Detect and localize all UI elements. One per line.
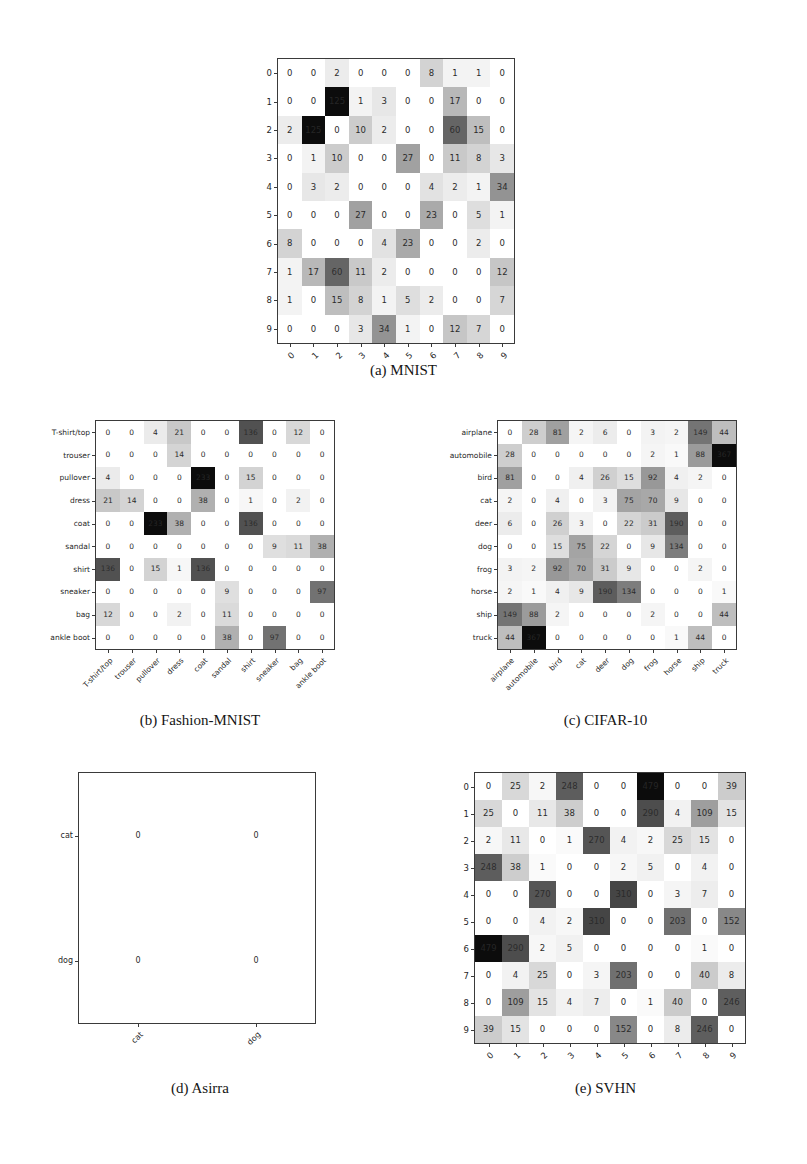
y-tick-label: 5 [267, 201, 278, 229]
heatmap-cell: 88 [522, 603, 546, 626]
y-tick-label: 3 [267, 144, 278, 172]
caption-cifar10: (c) CIFAR-10 [404, 712, 807, 729]
heatmap-cell: 0 [167, 467, 191, 490]
heatmap-cell: 15 [546, 535, 570, 558]
caption-mnist: (a) MNIST [0, 362, 807, 379]
heatmap-cell: 0 [556, 962, 583, 989]
heatmap-cell: 0 [593, 626, 617, 649]
heatmap-cell: 310 [583, 908, 610, 935]
heatmap-cell: 15 [467, 116, 491, 144]
x-tick-mark [108, 649, 109, 653]
heatmap-cell: 22 [617, 512, 641, 535]
heatmap-cell: 0 [263, 421, 287, 444]
heatmap-cell: 367 [712, 444, 736, 467]
heatmap-cell: 0 [443, 229, 467, 257]
heatmap-cell: 0 [191, 581, 215, 604]
heatmap-cell: 0 [325, 201, 349, 229]
heatmap-cell: 0 [718, 935, 745, 962]
heatmap-cell: 0 [263, 444, 287, 467]
x-tick-mark [624, 1043, 625, 1047]
heatmap-cell: 0 [664, 854, 691, 881]
heatmap-cell: 4 [529, 908, 556, 935]
svhn-matrix: 0252248004790039250113800290410915211012… [474, 772, 746, 1044]
heatmap-cell: 14 [167, 444, 191, 467]
heatmap-cell: 21 [96, 489, 120, 512]
fashion-mnist-grid: 0042100136012000014000000400023301500021… [96, 421, 334, 649]
x-tick-mark [558, 649, 559, 653]
y-tick-label: ship [476, 603, 498, 626]
heatmap-cell: 11 [286, 535, 310, 558]
heatmap-cell: 190 [665, 512, 689, 535]
heatmap-cell: 0 [583, 800, 610, 827]
heatmap-cell: 0 [96, 581, 120, 604]
heatmap-cell: 12 [490, 258, 514, 286]
heatmap-cell: 4 [502, 962, 529, 989]
y-tick-label: bird [477, 467, 498, 490]
heatmap-cell: 1 [302, 144, 326, 172]
heatmap-cell: 39 [718, 773, 745, 800]
heatmap-cell: 38 [215, 626, 239, 649]
heatmap-cell: 290 [502, 935, 529, 962]
heatmap-cell: 70 [641, 489, 665, 512]
heatmap-cell: 0 [310, 512, 334, 535]
heatmap-cell: 2 [546, 603, 570, 626]
heatmap-cell: 0 [610, 935, 637, 962]
heatmap-cell: 0 [310, 489, 334, 512]
heatmap-cell: 0 [325, 116, 349, 144]
heatmap-cell: 0 [197, 773, 315, 898]
heatmap-cell: 0 [239, 581, 263, 604]
heatmap-cell: 248 [475, 854, 502, 881]
heatmap-cell: 3 [593, 489, 617, 512]
heatmap-cell: 28 [498, 444, 522, 467]
heatmap-cell: 0 [120, 512, 144, 535]
y-tick-label: 0 [267, 59, 278, 87]
y-tick-label: deer [475, 512, 498, 535]
heatmap-cell: 0 [688, 603, 712, 626]
heatmap-cell: 44 [498, 626, 522, 649]
heatmap-cell: 2 [498, 489, 522, 512]
heatmap-cell: 44 [688, 626, 712, 649]
y-tick-label: 0 [464, 773, 475, 800]
heatmap-cell: 70 [569, 558, 593, 581]
x-tick-mark [581, 649, 582, 653]
heatmap-cell: 0 [372, 144, 396, 172]
heatmap-cell: 2 [498, 581, 522, 604]
heatmap-cell: 3 [372, 87, 396, 115]
heatmap-cell: 0 [556, 854, 583, 881]
heatmap-cell: 0 [691, 989, 718, 1016]
heatmap-cell: 0 [688, 512, 712, 535]
heatmap-cell: 2 [443, 173, 467, 201]
heatmap-cell: 0 [302, 87, 326, 115]
heatmap-cell: 0 [420, 315, 444, 343]
heatmap-cell: 0 [167, 626, 191, 649]
heatmap-cell: 1 [712, 581, 736, 604]
heatmap-cell: 44 [712, 421, 736, 444]
heatmap-cell: 9 [665, 489, 689, 512]
cifar10-matrix: 0288126032149442800000218836781004261592… [497, 420, 737, 650]
heatmap-cell: 1 [665, 626, 689, 649]
heatmap-cell: 38 [502, 854, 529, 881]
heatmap-cell: 0 [191, 626, 215, 649]
heatmap-cell: 0 [310, 603, 334, 626]
heatmap-cell: 2 [641, 603, 665, 626]
heatmap-cell: 44 [712, 603, 736, 626]
y-tick-label: 8 [267, 286, 278, 314]
x-tick-mark [651, 1043, 652, 1047]
heatmap-cell: 190 [593, 581, 617, 604]
panel-asirra: 0000 catdog catdog (d) Asirra [0, 758, 400, 1108]
heatmap-cell: 0 [569, 603, 593, 626]
heatmap-cell: 92 [546, 558, 570, 581]
heatmap-cell: 0 [665, 581, 689, 604]
heatmap-cell: 0 [96, 626, 120, 649]
heatmap-cell: 0 [239, 626, 263, 649]
heatmap-cell: 4 [546, 581, 570, 604]
x-tick-mark [489, 1043, 490, 1047]
heatmap-cell: 233 [144, 512, 168, 535]
heatmap-cell: 75 [617, 489, 641, 512]
heatmap-cell: 1 [167, 558, 191, 581]
heatmap-cell: 15 [691, 827, 718, 854]
heatmap-cell: 0 [278, 173, 302, 201]
y-tick-label: 4 [464, 881, 475, 908]
heatmap-cell: 8 [420, 59, 444, 87]
heatmap-cell: 0 [372, 173, 396, 201]
